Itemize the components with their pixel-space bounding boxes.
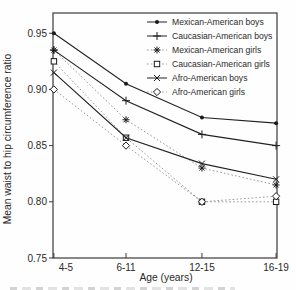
legend-label: Afro-American boys [172,73,247,83]
y-axis-label: Mean waist to hip circumference ratio [2,53,13,224]
legend-label: Caucasian-American girls [172,59,270,69]
legend-dot-filled-icon [155,20,159,24]
x-tick-label: 4-5 [59,262,74,273]
x-tick-label: 12-15 [189,262,215,273]
y-tick-label: 0.90 [28,84,48,95]
legend-label: Caucasian-American boys [172,31,272,41]
legend-item: Afro-American boys [147,73,247,83]
legend-label: Mexican-American boys [172,17,264,27]
series-afro-american-girls [50,86,279,206]
legend-diamond-open-icon [153,88,160,95]
x-axis-label: Age (years) [139,272,192,283]
legend: Mexican-American boysCaucasian-American … [147,17,272,97]
legend-item: Mexican-American girls [147,45,261,55]
legend-label: Afro-American girls [172,87,245,97]
y-tick-label: 0.80 [28,196,48,207]
y-tick-label: 0.95 [28,28,48,39]
legend-asterisk-icon [154,47,161,54]
y-tick-label: 0.75 [28,253,48,264]
legend-plus-icon [153,32,161,40]
series-line [54,89,276,201]
legend-item: Caucasian-American boys [147,31,272,41]
legend-item: Mexican-American boys [147,17,264,27]
legend-item: Caucasian-American girls [147,59,270,69]
legend-label: Mexican-American girls [172,45,261,55]
y-tick-label: 0.85 [28,140,48,151]
x-tick-label: 6-11 [116,262,136,273]
legend-square-open-icon [154,61,159,66]
plot-area: 0.950.900.850.800.754-56-1112-1516-19Mex… [28,13,290,273]
x-tick-label: 16-19 [263,262,289,273]
line-chart: 0.950.900.850.800.754-56-1112-1516-19Mex… [0,0,296,290]
scanned-chart-figure: 0.950.900.850.800.754-56-1112-1516-19Mex… [0,0,296,290]
legend-item: Afro-American girls [147,87,245,97]
